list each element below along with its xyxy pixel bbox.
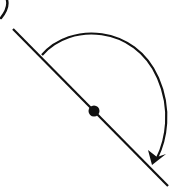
rotation-diagram — [0, 0, 179, 187]
arrowhead-icon — [148, 150, 166, 165]
rotation-arc — [42, 34, 166, 158]
pivot-point — [89, 106, 100, 117]
label-fragment-paren — [1, 0, 7, 18]
